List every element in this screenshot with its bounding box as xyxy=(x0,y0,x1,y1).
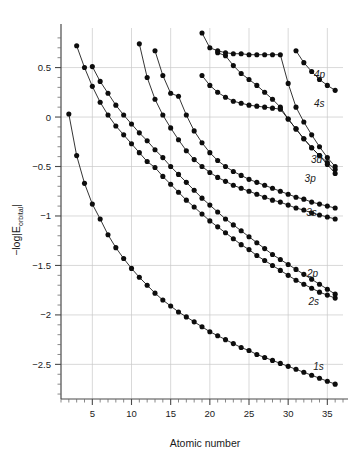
data-point-1s xyxy=(152,291,157,296)
data-point-2p xyxy=(160,155,165,160)
data-point-2s xyxy=(278,268,283,273)
data-point-1s xyxy=(207,329,212,334)
data-point-3p xyxy=(215,158,220,163)
data-point-1s xyxy=(129,266,134,271)
data-point-1s xyxy=(90,202,95,207)
data-point-2s xyxy=(254,253,259,258)
data-point-4s xyxy=(207,83,212,88)
data-point-1s xyxy=(113,245,118,250)
data-point-3s xyxy=(278,200,283,205)
data-point-4s xyxy=(231,99,236,104)
data-point-1s xyxy=(176,309,181,314)
data-point-2p xyxy=(317,282,322,287)
data-point-4s-upper xyxy=(239,51,244,56)
y-tick-label: −0.5 xyxy=(32,161,51,172)
data-point-3p xyxy=(192,128,197,133)
data-point-3p xyxy=(262,183,267,188)
data-point-3p xyxy=(293,195,298,200)
data-point-2s xyxy=(317,290,322,295)
data-point-3s xyxy=(286,203,291,208)
data-point-3s xyxy=(270,198,275,203)
data-point-1s xyxy=(246,348,251,353)
data-point-2s xyxy=(129,141,134,146)
orbital-energy-chart: 51015202530350.50−0.5−1−1.5−2−2.5 1s2s2p… xyxy=(0,0,350,455)
data-point-3s xyxy=(168,125,173,130)
data-point-2p xyxy=(270,252,275,257)
data-point-4s-upper xyxy=(325,155,330,160)
data-point-4p xyxy=(301,60,306,65)
series-label-1s: 1s xyxy=(313,361,324,372)
x-tick-label: 20 xyxy=(205,408,216,419)
data-point-2s xyxy=(239,242,244,247)
data-point-2p xyxy=(231,222,236,227)
x-tick-label: 15 xyxy=(165,408,176,419)
data-point-3s xyxy=(215,175,220,180)
data-point-4s-upper xyxy=(231,51,236,56)
data-point-3p xyxy=(325,204,330,209)
data-point-3p xyxy=(168,91,173,96)
data-point-2p xyxy=(262,246,267,251)
data-point-3s xyxy=(293,206,298,211)
data-point-1s xyxy=(215,333,220,338)
data-point-3s xyxy=(176,137,181,142)
data-point-2p xyxy=(223,216,228,221)
data-point-3p xyxy=(223,164,228,169)
y-axis-title-suffix: | xyxy=(10,204,22,207)
data-point-2s xyxy=(105,113,110,118)
series-label-2p: 2p xyxy=(306,268,319,279)
data-point-3s xyxy=(199,164,204,169)
series-label-4p: 4p xyxy=(314,69,326,80)
data-point-1s xyxy=(98,216,103,221)
data-point-1s xyxy=(168,303,173,308)
data-point-3p xyxy=(270,186,275,191)
data-point-4s-upper xyxy=(333,164,338,169)
data-point-3p xyxy=(152,48,157,53)
data-point-2s xyxy=(223,230,228,235)
y-tick-label: −1 xyxy=(40,210,51,221)
data-point-3p xyxy=(231,169,236,174)
data-point-3p xyxy=(199,140,204,145)
data-point-1s xyxy=(105,232,110,237)
data-point-1s xyxy=(199,324,204,329)
chart-background xyxy=(0,0,350,455)
data-point-3d xyxy=(262,90,267,95)
data-point-1s xyxy=(66,112,71,117)
data-point-2p xyxy=(105,91,110,96)
data-point-4s xyxy=(215,90,220,95)
data-point-2p xyxy=(333,292,338,297)
data-point-2s xyxy=(199,211,204,216)
data-point-2s xyxy=(98,100,103,105)
data-point-2s xyxy=(270,263,275,268)
data-point-1s xyxy=(317,376,322,381)
data-point-1s xyxy=(137,275,142,280)
data-point-4s xyxy=(223,95,228,100)
data-point-2p xyxy=(215,209,220,214)
series-label-4s: 4s xyxy=(314,98,325,109)
data-point-1s xyxy=(286,364,291,369)
data-point-3s xyxy=(184,148,189,153)
y-tick-label: 0.5 xyxy=(38,62,51,73)
data-point-4s-upper xyxy=(309,132,314,137)
chart-svg: 51015202530350.50−0.5−1−1.5−2−2.5 1s2s2p… xyxy=(0,0,350,455)
data-point-1s xyxy=(82,181,87,186)
data-point-2s xyxy=(192,205,197,210)
data-point-2p xyxy=(168,164,173,169)
data-point-2p xyxy=(207,203,212,208)
data-point-2p xyxy=(90,64,95,69)
data-point-1s xyxy=(325,379,330,384)
data-point-3p xyxy=(301,197,306,202)
data-point-3p xyxy=(278,189,283,194)
data-point-2s xyxy=(262,258,267,263)
data-point-2p xyxy=(121,113,126,118)
data-point-4p xyxy=(333,88,338,93)
data-point-3s xyxy=(246,189,251,194)
data-point-1s xyxy=(121,256,126,261)
data-point-3d xyxy=(239,71,244,76)
data-point-2p xyxy=(98,79,103,84)
data-point-1s xyxy=(293,367,298,372)
data-point-4s-upper xyxy=(254,52,259,57)
data-point-1s xyxy=(333,382,338,387)
series-label-3d: 3d xyxy=(311,154,323,165)
data-point-3p xyxy=(286,192,291,197)
data-point-2s xyxy=(184,198,189,203)
